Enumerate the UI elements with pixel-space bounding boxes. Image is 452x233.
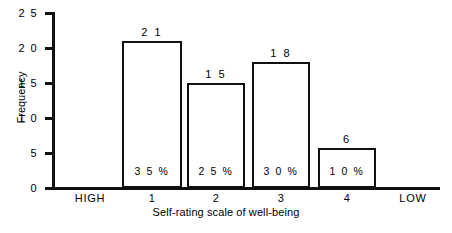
y-tick-20 xyxy=(45,47,52,50)
bar-value-label-4: 6 xyxy=(318,134,376,145)
x-label-low: LOW xyxy=(382,193,444,204)
x-label-2: 2 xyxy=(187,193,245,204)
x-axis-line xyxy=(52,187,440,190)
y-tick-25 xyxy=(45,12,52,15)
y-tick-label-0: 0 xyxy=(0,183,38,194)
y-axis-line xyxy=(52,12,55,189)
x-label-1: 1 xyxy=(122,193,182,204)
bar-value-label-1: 2 1 xyxy=(122,27,182,38)
bar-chart: Frequency 2 5 2 0 1 5 1 0 5 0 2 1 3 5 % … xyxy=(0,0,452,233)
y-tick-0 xyxy=(45,187,52,190)
y-tick-label-20: 2 0 xyxy=(0,43,38,54)
bar-percent-label-3: 3 0 % xyxy=(252,166,310,177)
y-tick-10 xyxy=(45,117,52,120)
bar-value-label-3: 1 8 xyxy=(252,48,310,59)
y-axis-title: Frequency xyxy=(16,55,27,141)
bar-percent-label-2: 2 5 % xyxy=(187,166,245,177)
y-tick-label-10: 1 0 xyxy=(0,113,38,124)
y-tick-5 xyxy=(45,152,52,155)
bar-percent-label-1: 3 5 % xyxy=(122,166,182,177)
y-tick-15 xyxy=(45,82,52,85)
x-label-4: 4 xyxy=(318,193,376,204)
x-axis-title: Self-rating scale of well-being xyxy=(0,207,452,218)
bar-value-label-2: 1 5 xyxy=(187,69,245,80)
bar-percent-label-4: 1 0 % xyxy=(318,166,376,177)
y-tick-label-25: 2 5 xyxy=(0,8,38,19)
x-label-3: 3 xyxy=(252,193,310,204)
y-tick-label-15: 1 5 xyxy=(0,78,38,89)
y-tick-label-5: 5 xyxy=(0,148,38,159)
x-label-high: HIGH xyxy=(58,193,122,204)
